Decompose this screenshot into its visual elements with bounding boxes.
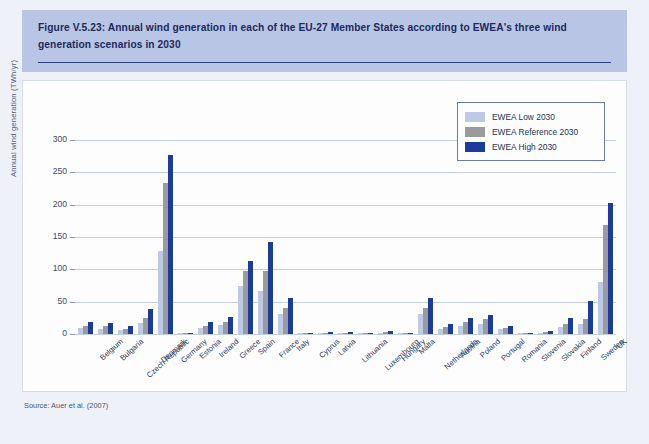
bar — [248, 261, 253, 334]
bar-group — [398, 140, 413, 334]
bar-group — [78, 140, 93, 334]
bar-group — [598, 140, 613, 334]
bar-group — [538, 140, 553, 334]
bar-group — [98, 140, 113, 334]
chart-legend: EWEA Low 2030 EWEA Reference 2030 EWEA H… — [457, 102, 605, 161]
bar-group — [158, 140, 173, 334]
bar — [308, 333, 313, 334]
bar — [108, 323, 113, 334]
y-tick-label: 200 — [23, 199, 67, 209]
y-tick-label: 250 — [23, 166, 67, 176]
bar — [448, 324, 453, 334]
bar-group — [138, 140, 153, 334]
legend-item: EWEA High 2030 — [465, 139, 596, 154]
bar — [228, 317, 233, 334]
bar — [468, 318, 473, 334]
chart-plot-area: Annual wind generation (TWh/yr) 05010015… — [22, 80, 627, 392]
figure-title: Figure V.5.23: Annual wind generation in… — [38, 19, 611, 53]
bar-group — [258, 140, 273, 334]
bar-group — [278, 140, 293, 334]
bar-group — [458, 140, 473, 334]
bar — [368, 333, 373, 334]
bar-group — [298, 140, 313, 334]
legend-item: EWEA Low 2030 — [465, 109, 596, 124]
y-tick-label: 0 — [23, 328, 67, 338]
bar — [168, 155, 173, 334]
y-axis-title: Annual wind generation (TWh/yr) — [9, 0, 18, 177]
bar-group — [338, 140, 353, 334]
bar-group — [498, 140, 513, 334]
bar — [128, 326, 133, 334]
y-tick-label: 300 — [23, 134, 67, 144]
y-tick-label: 100 — [23, 263, 67, 273]
bar — [208, 322, 213, 334]
bar — [528, 333, 533, 334]
bar-group — [318, 140, 333, 334]
bar-group — [378, 140, 393, 334]
bar-group — [238, 140, 253, 334]
legend-label-reference: EWEA Reference 2030 — [492, 127, 578, 137]
bar-group — [418, 140, 433, 334]
legend-label-high: EWEA High 2030 — [492, 142, 557, 152]
bar — [588, 301, 593, 334]
bar — [148, 309, 153, 334]
y-tick-label: 150 — [23, 231, 67, 241]
legend-swatch-low — [465, 112, 485, 122]
legend-item: EWEA Reference 2030 — [465, 124, 596, 139]
bar — [568, 318, 573, 334]
source-note: Source: Auer et al. (2007) — [24, 401, 108, 410]
bar-group — [478, 140, 493, 334]
bar-group — [438, 140, 453, 334]
bar — [548, 331, 553, 334]
bar — [508, 326, 513, 334]
bar-group — [358, 140, 373, 334]
figure-container: Figure V.5.23: Annual wind generation in… — [0, 0, 649, 444]
bar — [608, 203, 613, 334]
bar — [328, 332, 333, 334]
title-divider — [38, 62, 611, 64]
bar — [188, 333, 193, 334]
bar — [428, 298, 433, 334]
bar — [268, 242, 273, 334]
bar — [88, 322, 93, 334]
bar — [348, 332, 353, 334]
bar-group — [518, 140, 533, 334]
bar-group — [218, 140, 233, 334]
legend-swatch-high — [465, 142, 485, 152]
legend-label-low: EWEA Low 2030 — [492, 112, 555, 122]
bar — [408, 333, 413, 334]
y-tick-label: 50 — [23, 296, 67, 306]
bar — [488, 315, 493, 334]
figure-header-band: Figure V.5.23: Annual wind generation in… — [22, 10, 627, 72]
bar-group — [118, 140, 133, 334]
bar — [388, 331, 393, 334]
legend-swatch-reference — [465, 127, 485, 137]
bar-group — [178, 140, 193, 334]
bar-group — [558, 140, 573, 334]
bar-group — [578, 140, 593, 334]
bar-group — [198, 140, 213, 334]
bar — [288, 298, 293, 334]
